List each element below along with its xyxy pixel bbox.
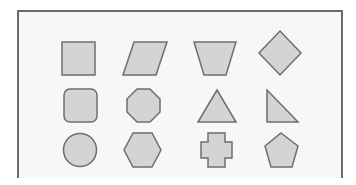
diamond-shape	[259, 31, 301, 75]
triangle-shape	[198, 90, 236, 122]
shape-grid	[0, 0, 356, 185]
parallelogram-shape	[123, 42, 167, 75]
trapezoid-shape	[194, 42, 236, 75]
rounded-square-shape	[64, 89, 97, 122]
hexagon-shape	[124, 133, 161, 167]
octagon-shape	[127, 89, 160, 122]
pentagon-shape	[265, 133, 298, 167]
cross-shape	[201, 133, 232, 167]
right-triangle-shape	[267, 90, 298, 122]
square-shape	[62, 42, 95, 75]
circle-shape	[64, 134, 97, 167]
